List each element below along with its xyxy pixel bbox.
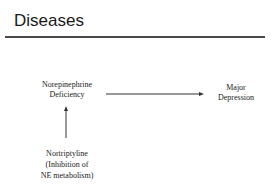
node-label-line: Deficiency xyxy=(32,90,102,100)
node-label-line: NE metabolism) xyxy=(28,170,106,181)
slide-title: Diseases xyxy=(14,11,84,31)
title-underline-rule xyxy=(5,36,265,38)
node-label-line: Major xyxy=(208,83,264,93)
arrow-right-icon xyxy=(106,92,204,96)
node-norepinephrine-deficiency: Norepinephrine Deficiency xyxy=(32,80,102,100)
arrow-up-icon xyxy=(62,106,70,138)
node-label-line: Depression xyxy=(208,93,264,103)
node-major-depression: Major Depression xyxy=(208,83,264,103)
node-nortriptyline: Nortriptyline (Inhibition of NE metaboli… xyxy=(28,148,106,181)
node-label-line: Norepinephrine xyxy=(32,80,102,90)
node-label-line: Nortriptyline xyxy=(28,148,106,159)
node-label-line: (Inhibition of xyxy=(28,159,106,170)
